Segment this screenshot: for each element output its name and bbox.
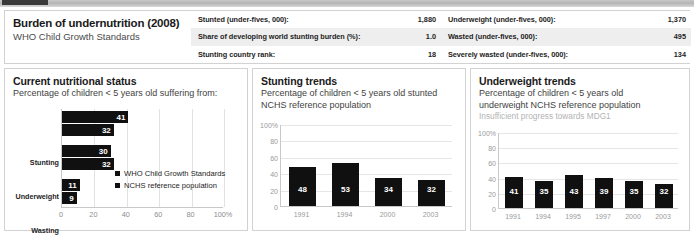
vbar-y-tick: 60 [488, 160, 496, 167]
vbar-x-tick: 1997 [595, 213, 611, 220]
stat-label: Stunting country rank: [198, 50, 428, 59]
hbar-category-label: Wasting [5, 226, 59, 235]
hbar-value-label: 11 [68, 181, 79, 190]
hbar-bar: 9 [62, 192, 77, 204]
stat-value: 495 [674, 32, 686, 41]
vbar-y-tick: 0 [492, 206, 496, 213]
panel-mid-subtitle-2: NCHS reference population [261, 100, 465, 111]
vbar-bar: 32 [418, 180, 445, 206]
panel-underweight-trends: Underweight trends Percentage of childre… [470, 68, 690, 231]
vbar-y-tick: 20 [488, 190, 496, 197]
burden-stats-table: Stunted (under-fives, 000):1,880Share of… [191, 11, 691, 63]
panel-right-subtitle: Percentage of children < 5 years old [479, 88, 689, 99]
vbar-x-tick: 1991 [505, 213, 521, 220]
vbar-gridline [281, 141, 452, 142]
vbar-bar: 32 [655, 184, 673, 208]
window-tab[interactable] [2, 0, 48, 5]
panel-left-subtitle: Percentage of children < 5 years old suf… [13, 88, 247, 99]
panel-stunting-trends: Stunting trends Percentage of children <… [252, 68, 466, 231]
vbar-value-label: 35 [540, 187, 549, 208]
vbar-x-tick: 2000 [380, 211, 396, 218]
stat-row: Severely wasted (under-fives, 000):134 [441, 46, 691, 63]
vbar-y-tick: 80 [488, 145, 496, 152]
hbar-x-tick: 0 [59, 210, 63, 219]
legend-item: WHO Child Growth Standards [115, 169, 225, 178]
vbar-gridline [499, 163, 678, 164]
hbar-x-tick: 20 [89, 210, 97, 219]
vbar-x-tick: 1991 [294, 211, 310, 218]
vbar-value-label: 32 [660, 187, 669, 208]
vbar-x-tick: 1994 [535, 213, 551, 220]
page-title: Burden of undernutrition (2008) [13, 17, 183, 30]
legend-item: NCHS reference population [115, 181, 225, 190]
hbar-bar: 32 [62, 124, 114, 136]
vbar-value-label: 35 [630, 187, 639, 208]
vbar-y-tick: 40 [270, 171, 278, 178]
header-title-block: Burden of undernutrition (2008) WHO Chil… [5, 11, 191, 63]
stat-label: Wasted (under-fives, 000): [448, 32, 674, 41]
vbar-y-tick: 100% [260, 122, 278, 129]
vbar-value-label: 41 [510, 187, 519, 208]
vbar-plot-area: 100%80604020048533432 [280, 125, 452, 207]
vbar-y-tick: 100% [478, 130, 496, 137]
mdg1-progress-note: Insufficient progress towards MDG1 [479, 111, 689, 121]
underweight-trends-chart: 199119941995199720002003100%806040200413… [471, 131, 689, 229]
stats-column-right: Underweight (under-fives, 000):1,370Wast… [441, 11, 691, 63]
vbar-gridline [281, 125, 452, 126]
stat-label: Severely wasted (under-fives, 000): [448, 50, 674, 59]
stat-label: Share of developing world stunting burde… [198, 32, 426, 41]
vbar-x-tick: 2003 [423, 211, 439, 218]
hbar-group: 3032 [62, 145, 224, 171]
vbar-gridline [499, 133, 678, 134]
vbar-gridline [499, 179, 678, 180]
burden-header-card: Burden of undernutrition (2008) WHO Chil… [4, 10, 690, 64]
horizontal-bar-chart: 41323032119 020406080100% WHO Child Grow… [5, 107, 249, 229]
vbar-bar: 34 [375, 178, 402, 206]
hbar-x-tick: 80 [187, 210, 195, 219]
stat-row: Share of developing world stunting burde… [191, 28, 441, 45]
hbar-x-tick: 100% [214, 210, 233, 219]
vbar-bar: 43 [565, 175, 583, 208]
vbar-y-tick: 80 [270, 138, 278, 145]
vbar-gridline [499, 148, 678, 149]
legend-swatch-icon [115, 183, 120, 188]
page-subtitle: WHO Child Growth Standards [13, 31, 183, 43]
vbar-value-label: 39 [600, 187, 609, 208]
vbar-value-label: 43 [570, 187, 579, 208]
stat-value: 1,370 [668, 15, 686, 24]
hbar-x-tick: 40 [122, 210, 130, 219]
stats-column-left: Stunted (under-fives, 000):1,880Share of… [191, 11, 441, 63]
stat-label: Stunted (under-fives, 000): [198, 15, 418, 24]
hbar-category-label: Underweight [5, 192, 59, 201]
vbar-x-tick: 1995 [565, 213, 581, 220]
hbar-x-axis-ticks: 020406080100% [61, 210, 223, 224]
hbar-bar: 32 [62, 158, 114, 170]
hbar-value-label: 32 [102, 126, 114, 135]
chart-legend: WHO Child Growth StandardsNCHS reference… [115, 169, 225, 193]
stat-row: Stunted (under-fives, 000):1,880 [191, 11, 441, 28]
vbar-x-tick: 1994 [337, 211, 353, 218]
stat-row: Stunting country rank:18 [191, 46, 441, 63]
legend-label: NCHS reference population [124, 181, 217, 190]
panel-current-nutritional-status: Current nutritional status Percentage of… [4, 68, 248, 231]
stat-row: Wasted (under-fives, 000):495 [441, 28, 691, 45]
hbar-x-tick: 60 [154, 210, 162, 219]
panel-mid-subtitle: Percentage of children < 5 years old stu… [261, 88, 465, 99]
hbar-bar: 11 [62, 179, 80, 191]
vbar-y-tick: 0 [274, 204, 278, 211]
legend-label: WHO Child Growth Standards [124, 169, 225, 178]
vbar-bar: 53 [332, 163, 359, 206]
vbar-bar: 35 [625, 181, 643, 208]
vbar-y-tick: 20 [270, 187, 278, 194]
hbar-value-label: 32 [102, 160, 114, 169]
vbar-plot-area: 100%806040200413543393532 [498, 133, 678, 209]
hbar-bar: 30 [62, 145, 111, 157]
legend-swatch-icon [115, 171, 120, 176]
panel-right-title: Underweight trends [479, 75, 689, 87]
stat-value: 18 [428, 50, 436, 59]
vbar-bar: 48 [289, 167, 316, 206]
vbar-x-tick: 2000 [625, 213, 641, 220]
panel-left-title: Current nutritional status [13, 75, 247, 87]
hbar-category-label: Stunting [5, 158, 59, 167]
panel-mid-title: Stunting trends [261, 75, 465, 87]
